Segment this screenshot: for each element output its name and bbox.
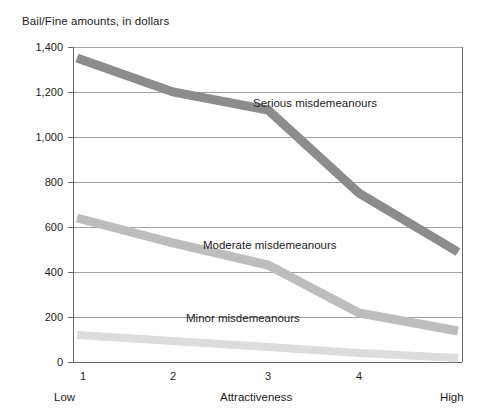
xtick-label-4: 4	[356, 370, 362, 382]
ytick-label-200: 200	[45, 311, 63, 323]
x-axis-low-label: Low	[54, 391, 76, 403]
line-chart-plot: 1,400 1,200 1,000 800 600 400 200 0 1 2 …	[0, 0, 485, 417]
chart-container: Bail/Fine amounts, in dollars	[0, 0, 485, 417]
ytick-label-1400: 1,400	[35, 41, 63, 53]
ytick-label-800: 800	[45, 176, 63, 188]
series-line-serious	[77, 58, 458, 252]
xtick-label-3: 3	[265, 370, 271, 382]
x-axis-captions: Low Attractiveness High	[54, 391, 464, 403]
x-axis-labels: 1 2 3 4	[80, 370, 362, 382]
series-line-minor	[77, 335, 458, 358]
x-axis-title: Attractiveness	[220, 391, 292, 403]
ytick-label-600: 600	[45, 221, 63, 233]
series-label-minor: Minor misdemeanours	[186, 312, 300, 324]
xtick-label-1: 1	[80, 370, 86, 382]
ytick-label-1000: 1,000	[35, 131, 63, 143]
ytick-label-0: 0	[57, 356, 63, 368]
gridlines	[73, 47, 462, 317]
y-axis-labels: 1,400 1,200 1,000 800 600 400 200 0	[35, 41, 63, 368]
series-labels: Serious misdemeanours Moderate misdemean…	[186, 97, 377, 324]
y-tick-marks	[68, 47, 73, 362]
ytick-label-1200: 1,200	[35, 86, 63, 98]
series-label-moderate: Moderate misdemeanours	[203, 239, 337, 251]
x-axis-high-label: High	[440, 391, 464, 403]
series-label-serious: Serious misdemeanours	[253, 97, 377, 109]
xtick-label-2: 2	[170, 370, 176, 382]
ytick-label-400: 400	[45, 266, 63, 278]
